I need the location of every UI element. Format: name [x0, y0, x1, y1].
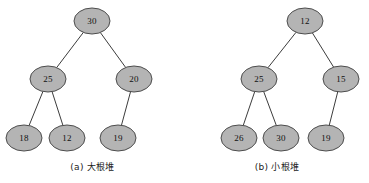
tree-node: 26 — [221, 125, 257, 151]
tree-edge — [312, 33, 333, 67]
tree-node: 15 — [323, 66, 359, 92]
binary-heap-diagram: 302520181219122515263019 — [0, 0, 369, 183]
node-value-label: 26 — [234, 133, 244, 143]
tree-edge — [52, 92, 63, 126]
tree-node: 25 — [30, 66, 66, 92]
node-value-label: 30 — [276, 133, 286, 143]
tree-edge — [29, 91, 43, 125]
node-value-label: 15 — [336, 74, 346, 84]
node-value-label: 30 — [87, 16, 97, 26]
tree-edge — [329, 92, 338, 125]
tree-edge — [121, 92, 130, 125]
node-value-label: 25 — [43, 74, 53, 84]
tree-node: 18 — [6, 125, 42, 151]
tree-node: 12 — [287, 8, 323, 34]
tree-edge — [57, 32, 84, 67]
nodes-layer: 302520181219122515263019 — [6, 8, 359, 151]
node-value-label: 12 — [300, 16, 309, 26]
node-value-label: 12 — [62, 133, 71, 143]
edges-layer — [29, 32, 338, 125]
tree-edge — [100, 33, 125, 68]
node-value-label: 25 — [254, 74, 264, 84]
tree-node: 19 — [100, 125, 136, 151]
tree-node: 12 — [49, 125, 85, 151]
caption-panel-a: (a) 大根堆 — [0, 160, 185, 173]
heap-figure: 302520181219122515263019 (a) 大根堆 (b) 小根堆 — [0, 0, 369, 183]
tree-edge — [243, 92, 254, 126]
tree-edge — [268, 32, 296, 67]
node-value-label: 20 — [129, 74, 139, 84]
node-value-label: 19 — [321, 133, 331, 143]
tree-node: 25 — [241, 66, 277, 92]
tree-node: 30 — [74, 8, 110, 34]
node-value-label: 18 — [19, 133, 29, 143]
caption-panel-b: (b) 小根堆 — [185, 160, 369, 173]
tree-node: 20 — [116, 66, 152, 92]
tree-edge — [264, 92, 277, 126]
node-value-label: 19 — [113, 133, 123, 143]
tree-node: 30 — [263, 125, 299, 151]
tree-node: 19 — [308, 125, 344, 151]
